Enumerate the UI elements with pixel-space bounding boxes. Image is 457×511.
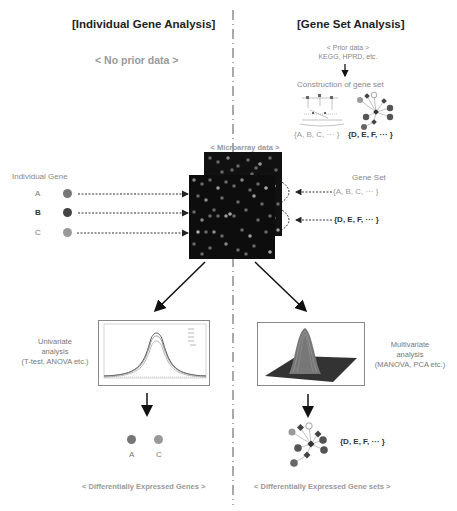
left-footer: < Differentially Expressed Genes > (82, 482, 205, 491)
down-arrows (0, 0, 457, 511)
result-network-icon (287, 422, 337, 472)
result-gene-dot-c (154, 435, 163, 444)
result-gene-label-a: A (129, 450, 134, 459)
result-gene-dot-a (127, 435, 136, 444)
right-footer: < Differentially Expressed Gene sets > (254, 482, 390, 491)
result-gene-label-c: C (156, 450, 162, 459)
result-gene-set: {D, E, F, ··· } (340, 437, 385, 446)
